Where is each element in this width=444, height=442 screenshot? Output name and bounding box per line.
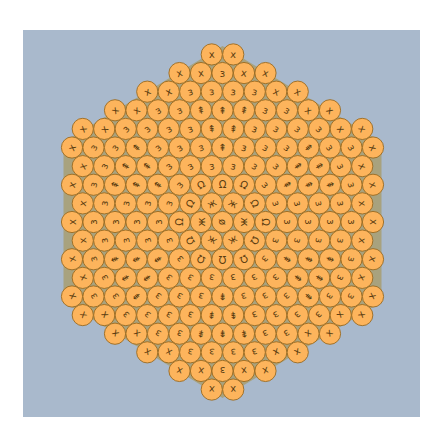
circle-cell-lobe: ⇞ — [126, 249, 147, 270]
circle-cell-border: x — [255, 360, 276, 381]
circle-cell-lobe: ⇞ — [276, 249, 297, 270]
circle-cell-band: ɜ — [126, 211, 147, 232]
circle-cell-band: ɜ — [276, 137, 297, 158]
circle-cell-band: ɜ — [341, 211, 362, 232]
circle-cell-border: x — [94, 304, 115, 325]
circle-cell-band: ɜ — [137, 193, 158, 214]
circle-cell-lobe: ⇞ — [298, 249, 319, 270]
circle-cell-band: ɜ — [266, 156, 287, 177]
circle-cell-band: ɜ — [147, 323, 168, 344]
circle-cell-lobe: ⇞ — [201, 304, 222, 325]
circle-cell-band: ɜ — [330, 193, 351, 214]
circle-cell-band: ɜ — [169, 100, 190, 121]
svg-text:ɜ: ɜ — [220, 365, 225, 376]
circle-cell-border: x — [137, 81, 158, 102]
svg-text:⇞: ⇞ — [207, 309, 217, 321]
circle-cell-border: x — [94, 118, 115, 139]
circle-cell-border: x — [201, 44, 222, 65]
circle-cell-border: x — [201, 379, 222, 400]
circle-cell-ring2: Ω — [212, 249, 233, 270]
circle-cell-lobe: ⇞ — [126, 174, 147, 195]
circle-cell-band: ɜ — [104, 137, 125, 158]
circle-cell-lobe: ⇞ — [126, 286, 147, 307]
circle-cell-band: ɜ — [223, 81, 244, 102]
circle-cell-band: ɜ — [330, 230, 351, 251]
svg-text:ɜ: ɜ — [88, 219, 99, 224]
circle-cell-band: ɜ — [341, 137, 362, 158]
svg-text:Ω: Ω — [260, 218, 271, 226]
circle-cell-border: x — [319, 100, 340, 121]
circle-cell-band: ɜ — [255, 100, 276, 121]
circle-cell-lobe: ⇞ — [147, 249, 168, 270]
circle-cell-ring2: Ω — [244, 230, 265, 251]
circle-cell-band: ɜ — [147, 211, 168, 232]
circle-cell-lobe: ⇞ — [104, 174, 125, 195]
circle-cell-band: ɜ — [255, 249, 276, 270]
circle-cell-band: ɜ — [309, 304, 330, 325]
circle-cell-lobe: ⇞ — [287, 156, 308, 177]
svg-text:x: x — [67, 219, 78, 225]
circle-cell-ring2: Ω — [180, 193, 201, 214]
circle-cell-band: ɜ — [244, 156, 265, 177]
circle-cell-border: x — [298, 100, 319, 121]
circle-cell-border: x — [158, 342, 179, 363]
circle-cell-band: ɜ — [147, 286, 168, 307]
svg-text:Ω: Ω — [174, 218, 185, 226]
circle-cell-band: ɜ — [255, 286, 276, 307]
circle-cell-band: ɜ — [233, 137, 254, 158]
circle-cell-band: ɜ — [115, 193, 136, 214]
circle-cell-lobe: ⇞ — [319, 249, 340, 270]
circle-cell-band: ɜ — [137, 230, 158, 251]
circle-cell-border: x — [61, 286, 82, 307]
circle-cell-lobe: ⇞ — [233, 100, 254, 121]
circle-cell-border: x — [352, 118, 373, 139]
circle-cell-band: ɜ — [83, 249, 104, 270]
circle-cell-border: x — [72, 118, 93, 139]
circle-cell-lobe: ⇞ — [298, 286, 319, 307]
circle-cell-lobe: ⇞ — [137, 156, 158, 177]
circle-cell-band: ɜ — [169, 249, 190, 270]
circle-cell-band: ɜ — [341, 286, 362, 307]
circle-cell-ring2: Ω — [169, 211, 190, 232]
circle-cell-border: x — [362, 137, 383, 158]
circle-cell-band: ɜ — [266, 304, 287, 325]
circle-cell-ring2: Ω — [212, 174, 233, 195]
circle-cell-border: x — [362, 174, 383, 195]
circle-cell-band: ɜ — [330, 156, 351, 177]
svg-text:x: x — [368, 219, 379, 225]
circle-cell-band: ɜ — [115, 230, 136, 251]
circle-cell-border: x — [72, 193, 93, 214]
svg-text:ɜ: ɜ — [230, 86, 236, 97]
svg-text:⇞: ⇞ — [218, 291, 226, 302]
circle-cell-band: ɜ — [233, 286, 254, 307]
circle-cell-border: x — [352, 304, 373, 325]
circle-cell-ring1: ж — [201, 193, 222, 214]
circle-cell-band: ɜ — [223, 156, 244, 177]
circle-cell-border: x — [352, 156, 373, 177]
circle-cell-band: ɜ — [223, 342, 244, 363]
circle-cell-band: ɜ — [94, 267, 115, 288]
circle-cell-border: x — [352, 230, 373, 251]
svg-text:ɜ: ɜ — [303, 219, 314, 224]
svg-text:ɜ: ɜ — [209, 347, 215, 358]
svg-text:⇞: ⇞ — [218, 328, 226, 339]
circle-cell-band: ɜ — [158, 304, 179, 325]
circle-cell-band: ɜ — [319, 211, 340, 232]
circle-cell-lobe: ⇞ — [147, 174, 168, 195]
circle-cell-band: ɜ — [255, 174, 276, 195]
circle-cell-band: ɜ — [319, 286, 340, 307]
circle-cell-ring2: Ω — [180, 230, 201, 251]
circle-cell-band: ɜ — [83, 286, 104, 307]
circle-cell-band: ɜ — [147, 100, 168, 121]
svg-text:⇞: ⇞ — [228, 309, 238, 321]
circle-cell-band: ɜ — [83, 211, 104, 232]
circle-cell-band: ɜ — [330, 267, 351, 288]
circle-cell-border: x — [287, 342, 308, 363]
circle-cell-lobe: ⇞ — [309, 156, 330, 177]
circle-cell-band: ɜ — [201, 81, 222, 102]
circle-cell-ring1: ж — [223, 230, 244, 251]
circle-cell-band: ɜ — [309, 118, 330, 139]
circle-cell-border: x — [190, 360, 211, 381]
circle-cell-band: ɜ — [169, 174, 190, 195]
circle-cell-band: ɜ — [212, 360, 233, 381]
